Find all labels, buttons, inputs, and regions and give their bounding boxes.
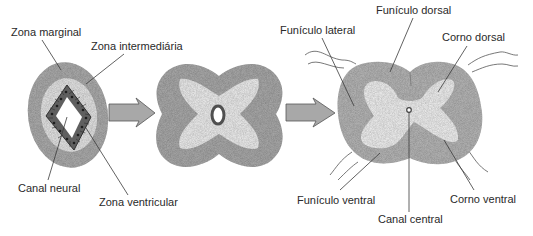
label-zona-intermediaria: Zona intermediária	[91, 40, 184, 52]
stage-early-neural-tube	[21, 57, 115, 173]
arrow-right-icon	[109, 98, 155, 127]
label-canal-central: Canal central	[378, 213, 443, 225]
stage-intermediate	[156, 64, 283, 167]
arrow-right-icon	[286, 98, 335, 127]
central-ring	[212, 106, 224, 124]
label-funiculo-dorsal: Funículo dorsal	[376, 4, 451, 16]
label-zona-ventricular: Zona ventricular	[99, 196, 178, 208]
label-funiculo-lateral: Funículo lateral	[280, 24, 355, 36]
label-zona-marginal: Zona marginal	[11, 26, 81, 38]
label-corno-dorsal: Corno dorsal	[442, 31, 505, 43]
label-canal-neural: Canal neural	[18, 182, 80, 194]
label-funiculo-ventral: Funículo ventral	[297, 194, 375, 206]
label-corno-ventral: Corno ventral	[450, 193, 516, 205]
central-canal	[407, 108, 412, 113]
neural-tube-development-diagram: Zona marginal Zona intermediária Canal n…	[0, 0, 533, 236]
